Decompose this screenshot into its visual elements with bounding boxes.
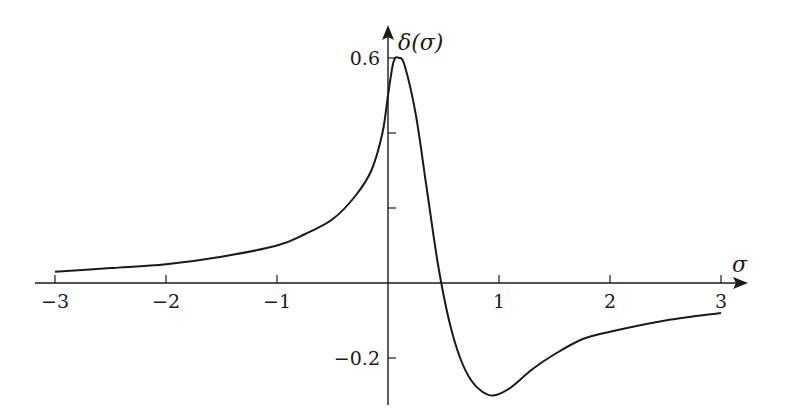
y-ticks: 0.6−0.2 [334, 47, 396, 369]
x-tick-label: −1 [263, 290, 291, 312]
x-tick-label: −3 [41, 290, 69, 312]
x-tick-label: −2 [152, 290, 180, 312]
chart: −3−2−1123 0.6−0.2 σ δ(σ) [0, 0, 785, 420]
y-tick-label: −0.2 [334, 347, 380, 369]
x-axis-label: σ [732, 252, 748, 277]
axes [35, 25, 748, 405]
y-axis-label: δ(σ) [398, 30, 443, 55]
x-tick-label: 2 [604, 290, 616, 312]
x-tick-label: 1 [493, 290, 505, 312]
x-tick-label: 3 [715, 290, 727, 312]
y-tick-label: 0.6 [350, 47, 380, 69]
x-ticks: −3−2−1123 [41, 275, 727, 312]
